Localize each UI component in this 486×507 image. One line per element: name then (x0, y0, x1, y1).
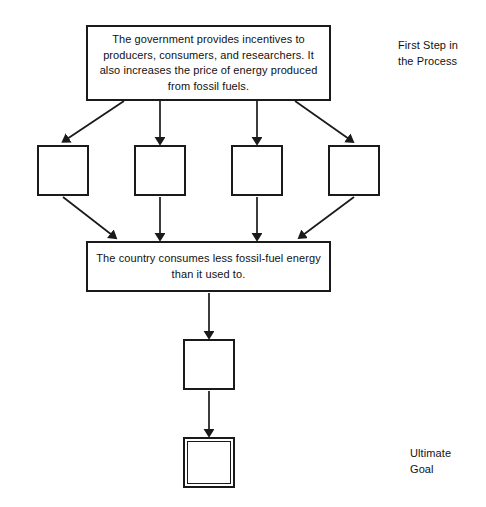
flowchart-diagram: The government provides incentives to pr… (0, 0, 486, 507)
node-blank-3[interactable] (231, 145, 283, 196)
node-blank-2[interactable] (134, 145, 186, 196)
connector-blank-1-to-middle (63, 197, 112, 235)
node-middle-statement: The country consumes less fossil-fuel en… (86, 241, 331, 292)
node-middle-statement-text: The country consumes less fossil-fuel en… (88, 251, 329, 282)
node-blank-1[interactable] (37, 145, 89, 196)
node-top-statement-text: The government provides incentives to pr… (88, 32, 329, 94)
connector-top-to-blank-1 (67, 101, 124, 139)
connector-top-to-blank-4 (295, 101, 349, 139)
label-ultimate-goal: Ultimate Goal (410, 446, 451, 477)
node-blank-goal-inner-frame (187, 441, 231, 484)
node-blank-5[interactable] (183, 339, 235, 390)
node-top-statement: The government provides incentives to pr… (86, 25, 331, 101)
node-blank-4[interactable] (328, 145, 380, 196)
node-blank-goal[interactable] (183, 437, 235, 488)
connector-blank-4-to-middle (303, 197, 354, 235)
label-first-step: First Step in the Process (398, 38, 458, 69)
